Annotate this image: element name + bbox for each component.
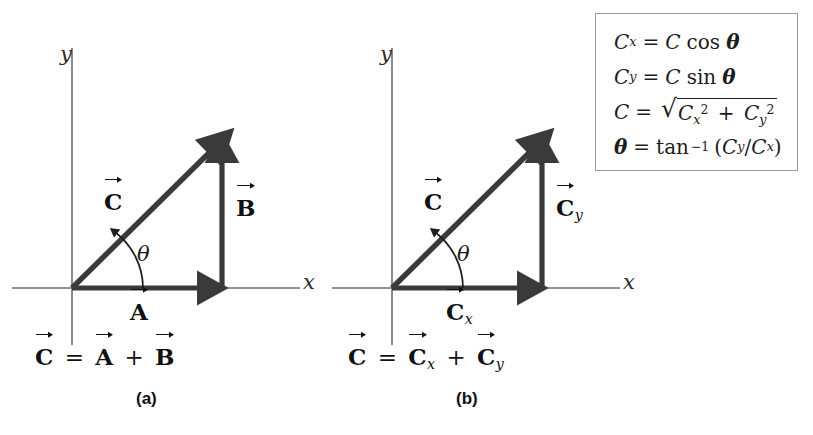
panel-a-label-b: B [236,196,255,219]
panel-a-caption: (a) [136,390,157,407]
panel-b-label-c: C [424,190,442,213]
panel-b-equation: C = Cx + Cy [348,345,504,371]
formula-box: Cx = C cos θ Cy = C sin θ C = √ Cx2 [595,13,798,171]
formula-magnitude: C = √ Cx2 + Cy2 [614,94,782,129]
formula-cy: Cy = C sin θ [614,59,782,94]
panel-a-label-c: C [104,190,122,213]
panel-b-label-cx: Cx [446,300,473,326]
panel-b-caption: (b) [456,390,478,407]
panel-b-y-axis-label: y [380,44,392,65]
panel-b-label-cy: Cy [556,196,583,222]
panel-a-equation: C = A + B [35,345,174,369]
formula-angle: θ = tan−1 ( Cy / Cx ) [614,129,782,164]
panel-a-x-axis-label: x [303,272,315,293]
formula-cx: Cx = C cos θ [614,24,782,59]
formula-list: Cx = C cos θ Cy = C sin θ C = √ Cx2 [614,24,782,164]
panel-a-vector-c [72,146,216,288]
panel-b-x-axis-label: x [623,272,635,293]
radical: √ Cx2 + Cy2 [661,97,777,127]
vector-addition-figure: y x θ C A B C = A + B (a) y x θ C Cx Cy … [0,0,813,435]
panel-a-angle-label: θ [137,244,150,265]
panel-b-vector-c [392,146,536,288]
panel-b-angle-label: θ [457,244,470,265]
panel-a-geometry [12,48,300,345]
panel-a-y-axis-label: y [60,44,72,65]
panel-a-label-a: A [130,300,148,323]
